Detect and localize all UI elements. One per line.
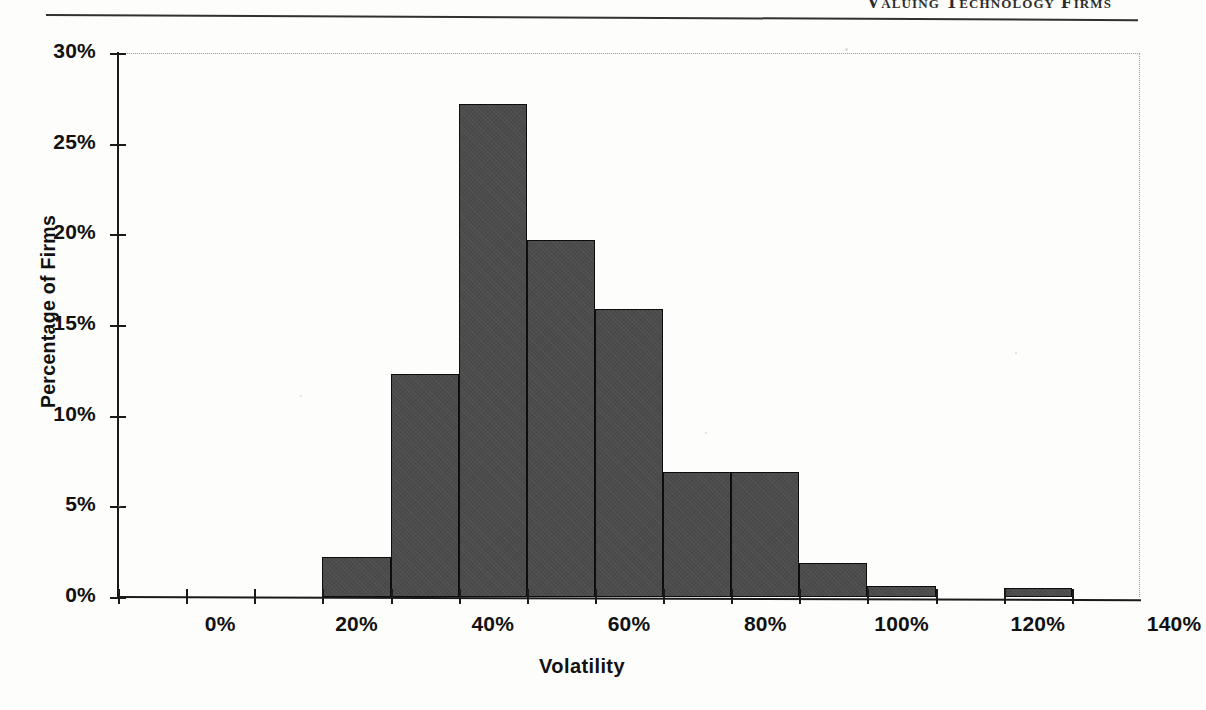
x-axis-tick bbox=[527, 589, 529, 604]
x-axis-tick bbox=[663, 589, 665, 604]
y-axis-tick-label: 30% bbox=[26, 39, 96, 63]
scan-speckle bbox=[845, 48, 848, 51]
histogram-bar bbox=[595, 309, 663, 597]
scan-speckle bbox=[300, 395, 302, 397]
x-axis-tick-label: 80% bbox=[720, 612, 810, 636]
histogram-bars bbox=[118, 53, 1140, 597]
histogram-bar bbox=[799, 563, 867, 597]
y-axis-tick bbox=[110, 325, 126, 327]
y-axis-tick bbox=[110, 144, 126, 146]
x-axis-tick bbox=[459, 589, 461, 604]
x-axis-tick bbox=[731, 589, 733, 604]
x-axis-tick bbox=[118, 589, 120, 604]
histogram-bar bbox=[322, 557, 390, 597]
y-axis-tick bbox=[110, 53, 126, 55]
x-axis-tick-label: 40% bbox=[448, 612, 538, 636]
x-axis-tick bbox=[254, 589, 256, 604]
y-axis-title: Percentage of Firms bbox=[37, 182, 60, 442]
x-axis-tick-label: 0% bbox=[175, 612, 265, 636]
histogram-bar bbox=[391, 374, 459, 597]
x-axis-tick-label: 120% bbox=[993, 612, 1083, 636]
histogram-bar bbox=[459, 104, 527, 597]
y-axis-tick-label: 0% bbox=[26, 583, 96, 607]
histogram-bar bbox=[731, 472, 799, 597]
histogram-bar bbox=[867, 586, 935, 597]
x-axis-tick bbox=[1072, 589, 1074, 604]
y-axis-tick-label: 5% bbox=[26, 492, 96, 516]
x-axis-tick-label: 140% bbox=[1129, 612, 1206, 636]
x-axis-tick bbox=[322, 589, 324, 604]
histogram-bar bbox=[527, 240, 595, 597]
x-axis-title: Volatility bbox=[0, 655, 1164, 678]
x-axis-tick bbox=[867, 589, 869, 604]
x-axis-tick-label: 60% bbox=[584, 612, 674, 636]
histogram-bar bbox=[663, 472, 731, 597]
y-axis-tick bbox=[110, 416, 126, 418]
x-axis-tick bbox=[595, 589, 597, 604]
x-axis-tick-label: 100% bbox=[857, 612, 947, 636]
x-axis-tick bbox=[799, 589, 801, 604]
x-axis-tick-label: 20% bbox=[311, 612, 401, 636]
x-axis-tick bbox=[186, 589, 188, 604]
x-axis-tick bbox=[391, 589, 393, 604]
histogram-bar bbox=[1004, 588, 1072, 597]
scan-speckle bbox=[1015, 352, 1017, 354]
y-axis-tick-label: 25% bbox=[26, 130, 96, 154]
scan-speckle bbox=[118, 505, 121, 507]
scan-speckle bbox=[705, 432, 707, 434]
x-axis-tick bbox=[936, 589, 938, 604]
x-axis-tick bbox=[1004, 589, 1006, 604]
y-axis-tick bbox=[110, 234, 126, 236]
